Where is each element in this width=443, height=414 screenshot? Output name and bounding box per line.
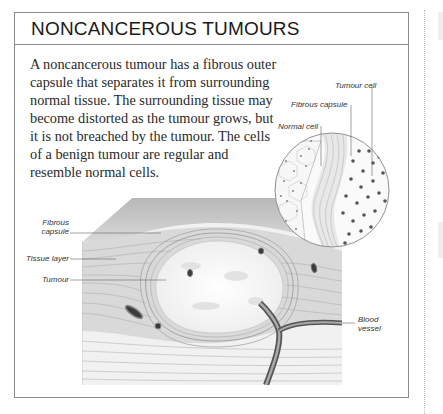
adjacent-panel-edge [438, 222, 443, 258]
label-fibrous-capsule-cells: Fibrous capsule [291, 100, 347, 109]
column-divider [424, 10, 425, 414]
adjacent-panel-edge [438, 12, 443, 40]
info-panel: NONCANCEROUS TUMOURS A noncancerous tumo… [14, 12, 409, 398]
label-fibrous-capsule: Fibrous capsule [15, 218, 69, 236]
label-normal-cell: Normal cell [278, 122, 318, 131]
tumour-illustration [15, 13, 410, 399]
label-tumour-cell: Tumour cell [335, 81, 376, 90]
label-tumour: Tumour [15, 275, 69, 284]
label-blood-vessel: Blood vessel [358, 315, 381, 333]
label-tissue-layer: Tissue layer [15, 254, 69, 263]
